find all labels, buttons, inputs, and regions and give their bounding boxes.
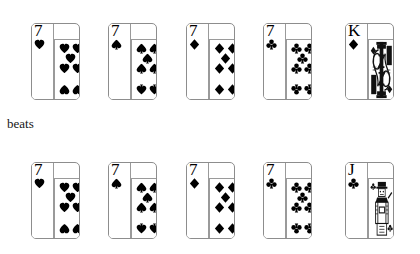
card-index-corner: K [345,23,368,100]
diamond-icon [189,178,200,189]
spade-icon [111,178,122,189]
card-index-corner: 7 [108,23,131,100]
card-rank: K [348,23,360,39]
pip-field [209,178,235,239]
heart-icon [34,178,45,189]
pip-field [286,178,312,239]
beats-label: beats [7,116,34,131]
club-icon [348,178,359,189]
diamond-icon [348,39,359,50]
pip-field [54,178,80,239]
heart-icon [59,84,70,95]
card-rank: 7 [266,162,275,178]
card-index-corner: 7 [31,162,54,239]
diamond-icon [227,63,235,74]
heart-icon [72,202,80,213]
club-icon [291,223,302,234]
club-icon [291,63,302,74]
diamond-icon [227,223,235,234]
club-icon [291,202,302,213]
pip-field [286,39,312,100]
spade-icon [136,63,147,74]
playing-card-seven-of-diamonds[interactable]: 7 [186,23,235,100]
card-rank: 7 [34,23,43,39]
club-icon [304,202,312,213]
card-index-corner: 7 [31,23,54,100]
club-icon [304,84,312,95]
card-index-corner: 7 [263,23,286,100]
heart-icon [72,84,80,95]
diamond-icon [214,84,225,95]
heart-icon [34,39,45,50]
card-rank: 7 [111,162,120,178]
diamond-icon [227,202,235,213]
diamond-icon [214,223,225,234]
spade-icon [136,84,147,95]
heart-icon [59,223,70,234]
playing-card-seven-of-diamonds[interactable]: 7 [186,162,235,239]
card-index-corner: 7 [186,162,209,239]
pip-field [131,178,157,239]
playing-card-seven-of-hearts[interactable]: 7 [31,23,80,100]
playing-card-seven-of-spades[interactable]: 7 [108,23,157,100]
spade-icon [136,223,147,234]
spade-icon [149,223,157,234]
card-rank: 7 [189,23,198,39]
pip-field [131,39,157,100]
bottom-hand-row: 7777J [0,162,420,242]
card-rank: 7 [266,23,275,39]
diamond-icon [189,39,200,50]
heart-icon [72,223,80,234]
playing-card-seven-of-spades[interactable]: 7 [108,162,157,239]
heart-icon [59,63,70,74]
club-icon [291,84,302,95]
club-icon [266,178,277,189]
club-icon [266,39,277,50]
spade-icon [149,63,157,74]
playing-card-seven-of-clubs[interactable]: 7 [263,23,312,100]
heart-icon [72,63,80,74]
card-rank: 7 [34,162,43,178]
court-figure-jack-of-clubs [368,178,394,239]
top-hand-row: 7777K [0,23,420,103]
spade-icon [111,39,122,50]
playing-card-king-of-diamonds[interactable]: K [345,23,394,100]
card-rank: 7 [189,162,198,178]
court-figure-king-of-diamonds [368,39,394,100]
playing-card-seven-of-hearts[interactable]: 7 [31,162,80,239]
playing-card-seven-of-clubs[interactable]: 7 [263,162,312,239]
card-index-corner: 7 [263,162,286,239]
club-icon [304,63,312,74]
spade-icon [136,202,147,213]
diamond-icon [227,84,235,95]
pip-field [209,39,235,100]
card-index-corner: 7 [108,162,131,239]
card-index-corner: 7 [186,23,209,100]
pip-field [54,39,80,100]
spade-icon [149,202,157,213]
heart-icon [59,202,70,213]
card-rank: J [348,162,355,178]
card-rank: 7 [111,23,120,39]
spade-icon [149,84,157,95]
diamond-icon [214,63,225,74]
card-index-corner: J [345,162,368,239]
playing-card-jack-of-clubs[interactable]: J [345,162,394,239]
diamond-icon [214,202,225,213]
club-icon [304,223,312,234]
